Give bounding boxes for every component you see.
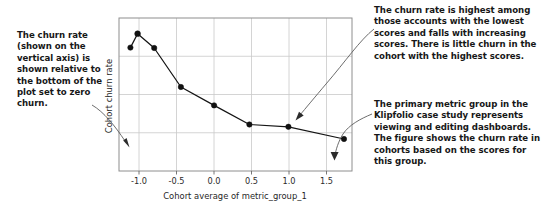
x-tick-label: -1.0: [131, 176, 147, 186]
x-tick-label: -0.5: [169, 176, 185, 186]
data-point: [341, 136, 346, 141]
y-axis-title: Cohort churn rate: [104, 59, 114, 133]
x-tick-label: 1.0: [282, 176, 295, 186]
data-point: [178, 84, 183, 89]
data-point: [286, 124, 291, 129]
data-point: [135, 31, 141, 37]
x-axis-title: Cohort average of metric_group_1: [163, 191, 306, 201]
data-point: [247, 122, 252, 127]
x-tick-label: 0.0: [207, 176, 220, 186]
x-tick-label: 0.5: [245, 176, 258, 186]
x-axis-tickmarks: [139, 171, 327, 175]
data-point: [152, 45, 157, 50]
x-tick-label: 1.5: [320, 176, 333, 186]
data-point: [128, 45, 133, 50]
churn-rate-line-chart: -1.0 -0.5 0.0 0.5 1.0 1.5 Cohort average…: [0, 0, 544, 215]
chart-svg: -1.0 -0.5 0.0 0.5 1.0 1.5 Cohort average…: [0, 0, 544, 215]
data-point: [211, 103, 216, 108]
